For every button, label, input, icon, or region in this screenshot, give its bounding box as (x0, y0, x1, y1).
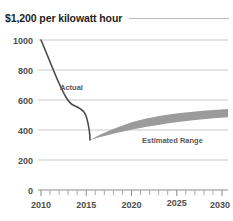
xtick-label-2025: 2025 (167, 198, 187, 208)
annotation-actual: Actual (60, 83, 83, 92)
xtick-label-2015: 2015 (76, 200, 96, 210)
ytick-label-1000: 1000 (13, 36, 33, 46)
ytick-label-800: 800 (18, 66, 33, 76)
annotation-estimated-range: Estimated Range (142, 136, 203, 145)
ytick-label-0: 0 (28, 186, 33, 196)
y-axis-labels: 1000 800 600 400 200 0 (13, 36, 33, 196)
actual-label: Actual (60, 83, 83, 92)
chart-container: $1,200 per kilowatt hour 1000 800 600 40… (0, 0, 233, 221)
x-axis: 2010 2015 2020 2025 2030 (31, 190, 230, 210)
xtick-label-2030: 2030 (210, 200, 230, 210)
ytick-label-200: 200 (18, 156, 33, 166)
ytick-label-600: 600 (18, 96, 33, 106)
xtick-label-2010: 2010 (31, 200, 51, 210)
estimated-range-label: Estimated Range (142, 136, 203, 145)
ytick-label-400: 400 (18, 126, 33, 136)
xtick-label-2020: 2020 (121, 200, 141, 210)
x-axis-ticks (41, 190, 222, 196)
chart-svg: 1000 800 600 400 200 0 Actual Estimated … (0, 0, 233, 221)
x-axis-labels: 2010 2015 2020 2025 2030 (31, 198, 230, 210)
